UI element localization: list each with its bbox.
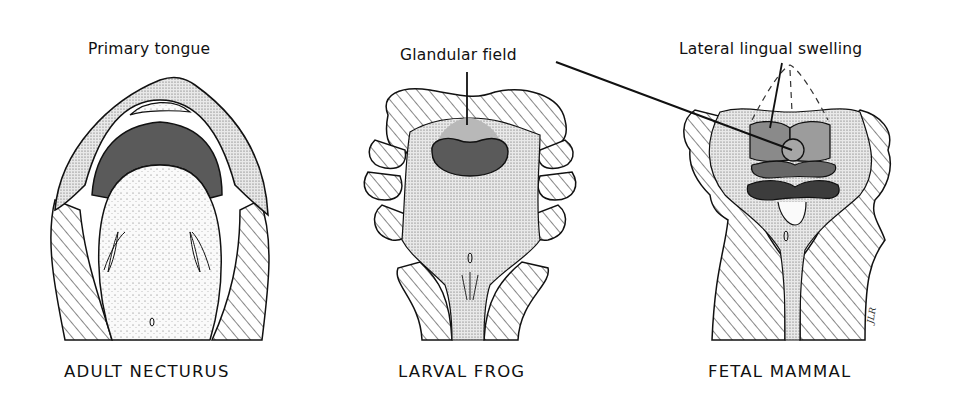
artist-signature: JLR (865, 306, 878, 326)
frog-drawing (364, 72, 575, 340)
label-lateral-lingual-swelling: Lateral lingual swelling (679, 40, 862, 58)
caption-fetal-mammal: FETAL MAMMAL (708, 362, 851, 381)
mammal-drawing: JLR (684, 63, 891, 340)
necturus-drawing (51, 78, 269, 340)
label-primary-tongue: Primary tongue (88, 40, 210, 58)
glandular-field-leader-line (556, 62, 792, 150)
caption-larval-frog: LARVAL FROG (398, 362, 525, 381)
label-glandular-field: Glandular field (400, 46, 517, 64)
caption-adult-necturus: ADULT NECTURUS (64, 362, 230, 381)
